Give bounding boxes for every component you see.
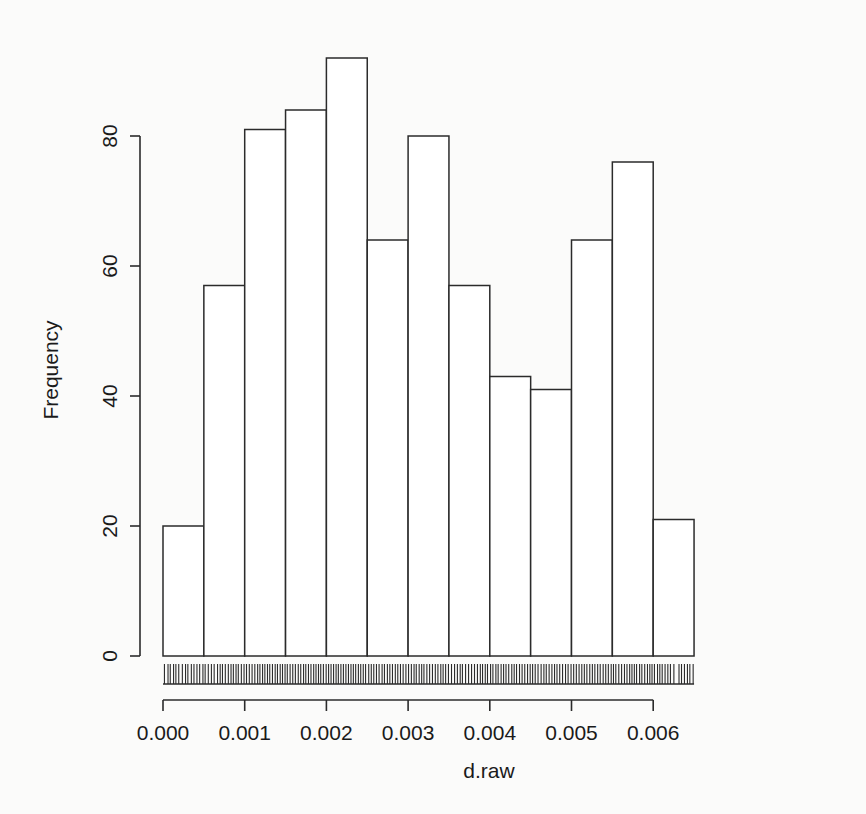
histogram-bar: [286, 110, 327, 656]
y-axis-tick-label: 60: [98, 254, 121, 277]
histogram-bar: [490, 377, 531, 657]
y-axis-tick-label: 20: [98, 514, 121, 537]
y-axis-tick-label: 80: [98, 124, 121, 147]
histogram-bar: [612, 162, 653, 656]
histogram-bar: [653, 520, 694, 657]
x-axis-tick-label: 0.006: [627, 721, 680, 744]
x-axis-tick-label: 0.005: [545, 721, 598, 744]
y-axis-title: Frequency: [39, 320, 62, 420]
x-axis-group: 0.0000.0010.0020.0030.0040.0050.006: [137, 700, 680, 744]
histogram-bar: [449, 286, 490, 657]
histogram-bar: [531, 390, 572, 657]
histogram-bar: [163, 526, 204, 656]
histogram-bar: [326, 58, 367, 656]
x-axis-tick-label: 0.001: [218, 721, 271, 744]
histogram-plot-root: 020406080 0.0000.0010.0020.0030.0040.005…: [0, 0, 866, 814]
rug-plot-group: [163, 664, 694, 684]
histogram-svg: 020406080 0.0000.0010.0020.0030.0040.005…: [0, 0, 866, 814]
histogram-bar: [245, 130, 286, 657]
x-axis-title: d.raw: [463, 759, 515, 782]
x-axis-tick-label: 0.003: [382, 721, 435, 744]
histogram-bar: [204, 286, 245, 657]
y-axis-tick-label: 0: [98, 650, 121, 662]
x-axis-tick-label: 0.000: [137, 721, 190, 744]
x-axis-tick-label: 0.004: [464, 721, 517, 744]
y-axis-tick-label: 40: [98, 384, 121, 407]
x-axis-tick-label: 0.002: [300, 721, 353, 744]
histogram-bar: [367, 240, 408, 656]
histogram-bar: [572, 240, 613, 656]
histogram-bar: [408, 136, 449, 656]
histogram-bars-group: [163, 58, 694, 656]
y-axis-group: 020406080: [98, 124, 140, 662]
